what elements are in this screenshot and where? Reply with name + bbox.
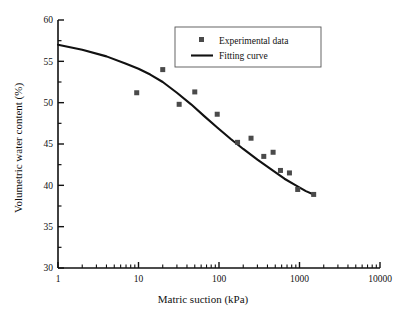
y-axis-tick-label: 45 [44,139,54,149]
data-point-marker [177,102,182,107]
data-point-marker [235,140,240,145]
data-point-marker [278,168,283,173]
y-axis-tick-label: 40 [44,181,54,191]
data-point-marker [160,67,165,72]
x-axis-tick-label: 1000 [290,274,309,284]
y-axis-tick-label: 50 [44,98,54,108]
y-axis-tick-label: 30 [44,263,54,273]
data-point-marker [287,170,292,175]
data-point-marker [215,112,220,117]
legend-label-fitting: Fitting curve [219,51,268,61]
legend-box: Experimental dataFitting curve [175,27,321,67]
x-axis-tick-label: 100 [212,274,227,284]
data-point-marker [295,187,300,192]
legend-frame [175,27,321,67]
data-point-marker [249,136,254,141]
y-axis-tick-label: 35 [44,222,54,232]
swcc-chart: 30354045505560110100100010000 Experiment… [0,0,407,313]
x-axis-tick-label: 10000 [368,274,392,284]
y-axis-tick-label: 55 [44,57,54,67]
x-axis-title: Matric suction (kPa) [158,293,249,306]
chart-page: 30354045505560110100100010000 Experiment… [0,0,407,313]
data-point-marker [134,90,139,95]
data-point-marker [192,89,197,94]
x-axis-tick-label: 10 [134,274,144,284]
legend-label-experimental: Experimental data [219,36,289,46]
y-axis-title: Volumetric water content (%) [12,83,25,214]
data-point-marker [261,154,266,159]
y-axis-tick-label: 60 [44,15,54,25]
legend-marker-square [199,37,204,42]
data-point-marker [271,150,276,155]
data-point-marker [311,192,316,197]
x-axis-tick-label: 1 [56,274,61,284]
